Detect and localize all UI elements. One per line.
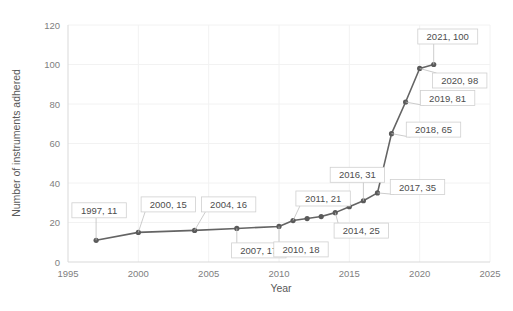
x-tick-label: 2010 bbox=[268, 268, 289, 279]
data-label-text: 2016, 31 bbox=[339, 169, 376, 180]
data-label-text: 2017, 35 bbox=[399, 182, 436, 193]
data-point-marker bbox=[417, 66, 422, 71]
data-point-marker bbox=[305, 216, 310, 221]
data-label-text: 1997, 11 bbox=[81, 205, 117, 216]
chart-canvas: 020406080100120 199520002005201020152020… bbox=[0, 0, 513, 311]
line-chart: 020406080100120 199520002005201020152020… bbox=[0, 0, 513, 311]
data-label-text: 2011, 21 bbox=[305, 193, 341, 204]
leader-line bbox=[420, 69, 437, 74]
y-tick-label: 120 bbox=[44, 20, 60, 31]
x-axis-tick-labels: 1995200020052010201520202025 bbox=[57, 268, 500, 279]
data-label-text: 2010, 18 bbox=[283, 244, 320, 255]
data-label-text: 2014, 25 bbox=[343, 225, 380, 236]
x-tick-label: 2005 bbox=[198, 268, 219, 279]
y-axis-title: Number of instruments adhered bbox=[10, 69, 22, 217]
x-tick-label: 2020 bbox=[409, 268, 430, 279]
x-axis-title: Year bbox=[270, 282, 292, 294]
data-label-text: 2018, 65 bbox=[415, 124, 452, 135]
data-label-text: 2021, 100 bbox=[427, 31, 469, 42]
x-tick-label: 2015 bbox=[339, 268, 360, 279]
x-tick-label: 2025 bbox=[479, 268, 500, 279]
y-tick-label: 80 bbox=[49, 99, 60, 110]
series-line bbox=[96, 65, 434, 241]
y-axis-tick-labels: 020406080100120 bbox=[44, 20, 60, 268]
data-label-text: 2020, 98 bbox=[441, 75, 478, 86]
data-label-text: 2019, 81 bbox=[429, 93, 466, 104]
y-tick-label: 40 bbox=[49, 178, 60, 189]
data-series bbox=[96, 65, 434, 241]
data-point-marker bbox=[290, 218, 295, 223]
x-tick-label: 1995 bbox=[57, 268, 78, 279]
data-label-text: 2004, 16 bbox=[210, 199, 247, 210]
y-tick-label: 100 bbox=[44, 59, 60, 70]
leader-line bbox=[195, 212, 206, 231]
data-label-text: 2007, 17 bbox=[240, 245, 277, 256]
y-tick-label: 20 bbox=[49, 217, 60, 228]
leader-line bbox=[293, 206, 300, 221]
data-label-text: 2000, 15 bbox=[150, 199, 187, 210]
data-point-marker bbox=[319, 214, 324, 219]
y-tick-label: 0 bbox=[55, 257, 60, 268]
data-markers bbox=[94, 62, 437, 243]
y-tick-label: 60 bbox=[49, 138, 60, 149]
x-tick-label: 2000 bbox=[128, 268, 149, 279]
